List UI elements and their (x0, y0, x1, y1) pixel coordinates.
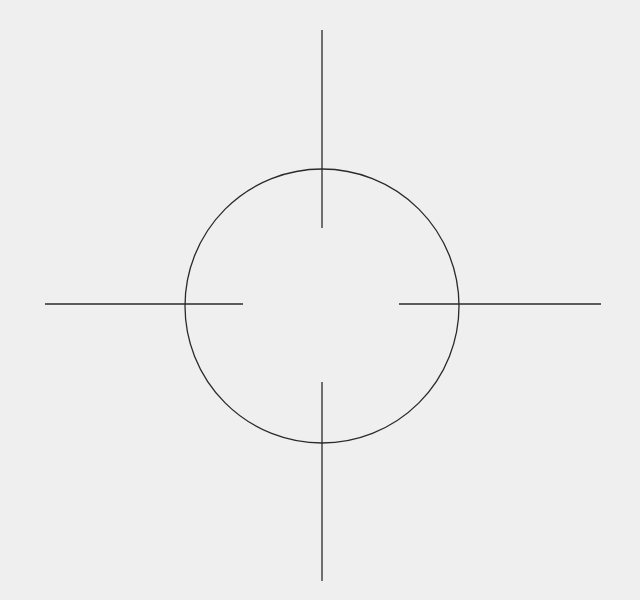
diagram-canvas: Crosshair / reticle: circle with four ra… (0, 0, 640, 600)
crosshair-diagram (0, 0, 640, 600)
